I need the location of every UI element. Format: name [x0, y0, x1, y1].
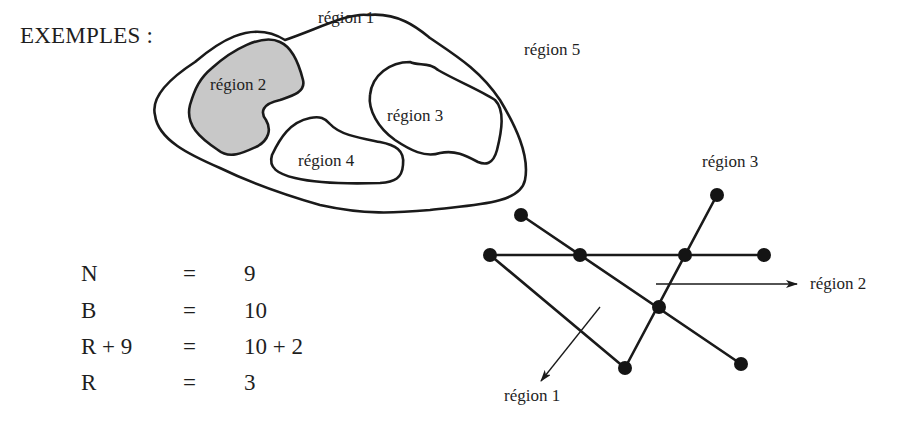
- region-1-label: région 1: [318, 8, 374, 28]
- graph-nodes: [483, 188, 771, 375]
- eq-rhs: 10 + 2: [244, 334, 303, 360]
- eq-rhs: 10: [244, 298, 267, 324]
- edge-diagonal-long: [521, 215, 741, 364]
- eq-lhs: R: [81, 370, 96, 396]
- graph-node: [483, 248, 497, 262]
- region-3-label: région 3: [387, 106, 443, 126]
- graph-edges: [490, 195, 764, 368]
- eq-lhs: B: [81, 298, 96, 324]
- diagram-canvas: [0, 0, 913, 437]
- eq-rhs: 3: [244, 370, 256, 396]
- eq-lhs: R + 9: [81, 334, 132, 360]
- eq-rhs: 9: [244, 261, 256, 287]
- graph-node: [678, 248, 692, 262]
- graph-region-2-label: région 2: [810, 274, 866, 294]
- graph-node: [734, 357, 748, 371]
- graph-region-3-label: région 3: [702, 152, 758, 172]
- arrow-region-1: [541, 307, 600, 381]
- graph-node: [514, 208, 528, 222]
- graph-node: [618, 361, 632, 375]
- region-5-label: région 5: [524, 40, 580, 60]
- graph-node: [573, 248, 587, 262]
- region-2-label: région 2: [210, 75, 266, 95]
- edge-top-to-bottom: [625, 195, 717, 368]
- graph-region-1-label: région 1: [504, 386, 560, 406]
- graph-node: [710, 188, 724, 202]
- graph-node: [652, 300, 666, 314]
- eq-op: =: [183, 261, 196, 287]
- eq-op: =: [183, 370, 196, 396]
- region-2-shape: [189, 40, 303, 155]
- eq-lhs: N: [81, 261, 98, 287]
- graph-node: [757, 248, 771, 262]
- examples-heading: EXEMPLES :: [20, 23, 153, 49]
- region-4-label: région 4: [298, 151, 354, 171]
- eq-op: =: [183, 334, 196, 360]
- eq-op: =: [183, 298, 196, 324]
